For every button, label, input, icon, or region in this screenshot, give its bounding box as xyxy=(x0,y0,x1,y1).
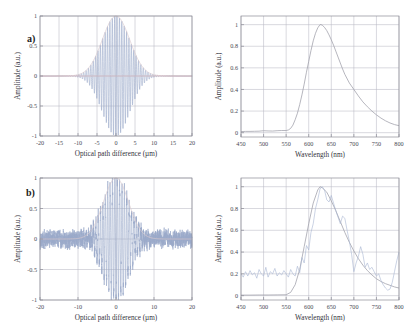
panel-a-interferogram: -20-15-10-505101520-1-0.500.51Optical pa… xyxy=(0,0,205,166)
x-tick-label: -20 xyxy=(36,139,44,146)
y-tick-label: 0.5 xyxy=(29,205,37,212)
y-axis-title: Amplitude (a.u.) xyxy=(215,215,223,263)
x-axis-title: Optical path difference (µm) xyxy=(75,314,158,322)
y-tick-label: 1 xyxy=(235,21,238,28)
x-tick-label: 650 xyxy=(327,140,336,147)
x-tick-label: 450 xyxy=(236,303,245,310)
panel-b-interferogram-plot: -20-1001020-1-0.500.51Optical path diffe… xyxy=(0,166,205,333)
x-tick-label: 700 xyxy=(349,140,358,147)
y-tick-label: 0.4 xyxy=(230,248,238,255)
y-tick-label: 1 xyxy=(34,174,37,181)
y-tick-label: 1 xyxy=(34,12,37,19)
y-tick-label: -1 xyxy=(32,132,37,139)
x-tick-label: -10 xyxy=(74,303,82,310)
x-tick-label: 5 xyxy=(133,139,136,146)
y-axis-title: Amplitude (a.u.) xyxy=(215,52,223,100)
y-tick-label: 0.6 xyxy=(230,64,238,71)
y-tick-label: 0 xyxy=(235,129,238,136)
y-tick-label: 0.6 xyxy=(230,226,238,233)
y-tick-label: -1 xyxy=(32,296,37,303)
x-tick-label: 550 xyxy=(282,303,291,310)
x-tick-label: 10 xyxy=(151,303,157,310)
figure-root: -20-15-10-505101520-1-0.500.51Optical pa… xyxy=(0,0,410,333)
x-axis-title: Wavelength (nm) xyxy=(295,151,346,159)
panel-label: b) xyxy=(26,187,35,199)
y-tick-label: 0.4 xyxy=(230,86,238,93)
x-axis-title: Wavelength (nm) xyxy=(295,314,346,322)
x-tick-label: 750 xyxy=(372,303,381,310)
y-tick-label: -0.5 xyxy=(27,266,37,273)
x-tick-label: 550 xyxy=(282,140,291,147)
y-axis-title: Amplitude (a.u.) xyxy=(14,215,22,263)
x-axis-title: Optical path difference (µm) xyxy=(75,150,158,158)
x-tick-label: 0 xyxy=(114,139,117,146)
x-tick-label: 600 xyxy=(304,303,313,310)
x-tick-label: 20 xyxy=(189,303,195,310)
x-tick-label: -10 xyxy=(74,139,82,146)
panel-b-interferogram: -20-1001020-1-0.500.51Optical path diffe… xyxy=(0,166,205,333)
x-tick-label: -15 xyxy=(55,139,63,146)
y-tick-label: 0.8 xyxy=(230,205,238,212)
panel-a-spectrum: 45050055060065070075080000.20.40.60.81Wa… xyxy=(205,0,410,166)
y-tick-label: 0.8 xyxy=(230,42,238,49)
x-tick-label: 15 xyxy=(170,139,176,146)
x-tick-label: 500 xyxy=(259,140,268,147)
x-tick-label: 800 xyxy=(394,140,403,147)
y-axis-title: Amplitude (a.u.) xyxy=(14,52,22,100)
panel-b-spectrum: 45050055060065070075080000.20.40.60.81Wa… xyxy=(205,166,410,333)
x-tick-label: -5 xyxy=(94,139,99,146)
y-tick-label: 0 xyxy=(34,235,37,242)
y-tick-label: 0 xyxy=(34,72,37,79)
panel-b-spectrum-plot: 45050055060065070075080000.20.40.60.81Wa… xyxy=(205,166,410,333)
x-tick-label: 450 xyxy=(236,140,245,147)
y-tick-label: 1 xyxy=(235,183,238,190)
y-tick-label: -0.5 xyxy=(27,102,37,109)
panel-a-spectrum-plot: 45050055060065070075080000.20.40.60.81Wa… xyxy=(205,0,410,166)
panel-label: a) xyxy=(27,33,35,45)
x-tick-label: 800 xyxy=(394,303,403,310)
x-tick-label: 750 xyxy=(372,140,381,147)
y-tick-label: 0.2 xyxy=(230,270,238,277)
x-tick-label: 10 xyxy=(151,139,157,146)
y-tick-label: 0.2 xyxy=(230,107,238,114)
x-tick-label: 20 xyxy=(189,139,195,146)
x-tick-label: 600 xyxy=(304,140,313,147)
x-tick-label: -20 xyxy=(36,303,44,310)
y-tick-label: 0 xyxy=(235,292,238,299)
panel-a-interferogram-plot: -20-15-10-505101520-1-0.500.51Optical pa… xyxy=(0,0,205,166)
x-tick-label: 650 xyxy=(327,303,336,310)
x-tick-label: 700 xyxy=(349,303,358,310)
x-tick-label: 500 xyxy=(259,303,268,310)
x-tick-label: 0 xyxy=(114,303,117,310)
